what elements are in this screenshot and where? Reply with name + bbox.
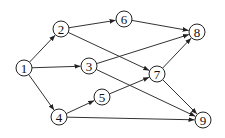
node-label: 8 [194,25,201,40]
node-6: 6 [116,11,132,27]
edge-2-to-7 [68,32,149,70]
node-label: 6 [121,12,128,27]
node-label: 3 [86,59,93,74]
edge-1-to-2 [30,35,56,62]
edge-1-to-3 [32,66,81,67]
node-7: 7 [149,66,165,82]
directed-graph: 123456789 [0,0,225,138]
edge-2-to-6 [69,20,116,27]
node-label: 2 [58,22,65,37]
edge-1-to-4 [29,75,54,111]
node-5: 5 [94,89,110,105]
edge-4-to-9 [67,117,195,120]
node-label: 7 [154,67,161,82]
node-4: 4 [51,109,67,125]
node-2: 2 [53,21,69,37]
edges-layer [29,20,197,119]
node-9: 9 [195,112,211,128]
edge-7-to-8 [163,38,192,68]
node-label: 5 [99,90,106,105]
node-label: 4 [56,110,63,125]
edge-6-to-8 [132,20,189,30]
node-3: 3 [81,58,97,74]
edge-3-to-8 [97,35,189,64]
node-label: 9 [200,113,207,128]
node-label: 1 [21,61,28,76]
node-1: 1 [16,60,32,76]
node-8: 8 [189,24,205,40]
edge-4-to-5 [66,101,94,114]
